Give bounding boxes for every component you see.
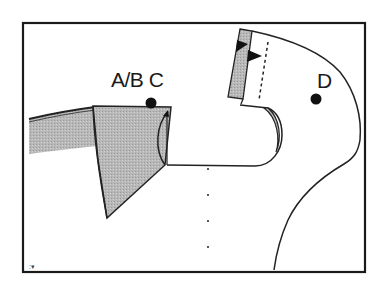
label-ab-c: A/B C: [111, 69, 163, 90]
corner-mark: :▾: [29, 263, 35, 270]
diagram-figure: A/B C D :▾: [0, 0, 380, 287]
point-d-dot: [311, 94, 322, 105]
diagram-canvas: [0, 0, 380, 287]
point-abc-dot: [146, 98, 157, 109]
label-d: D: [317, 70, 332, 91]
